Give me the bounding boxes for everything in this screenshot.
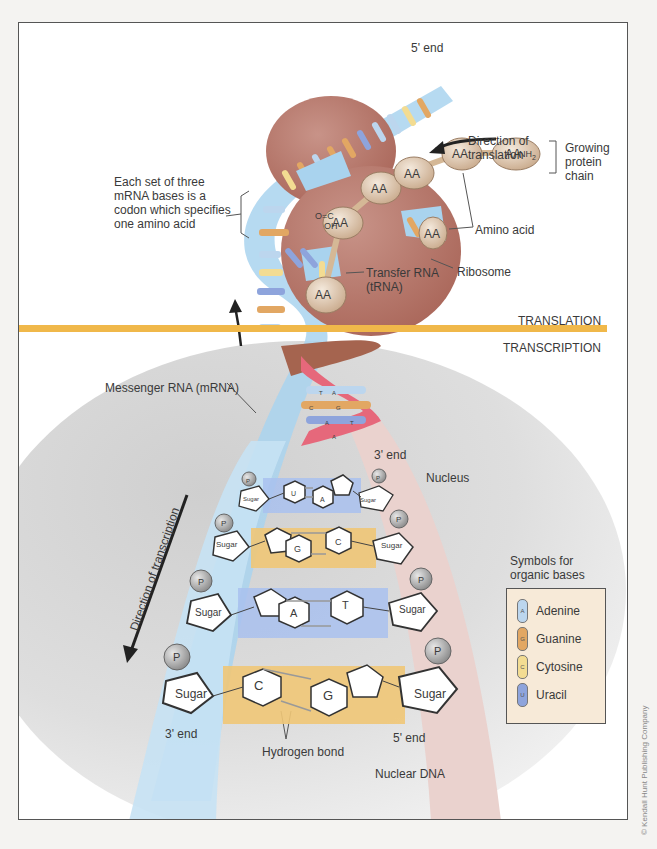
guanine-swatch-icon: G: [517, 627, 528, 651]
translation-section-label: TRANSLATION: [518, 314, 601, 328]
base-pair-4-right: G: [323, 689, 333, 703]
base-pair-1-left: U: [291, 487, 296, 501]
phosphate-label-r4: P: [434, 644, 441, 658]
copyright-notice: © Kendall Hunt Publishing Company: [640, 705, 649, 835]
phosphate-label-r3: P: [418, 573, 424, 587]
legend-title-line2: organic bases: [510, 568, 585, 582]
legend-item-uracil: U Uracil: [517, 683, 567, 707]
amino-acid-aa-4: AA: [452, 147, 468, 161]
helix-pair-3-right: T: [350, 416, 354, 430]
base-pair-2-right: C: [335, 535, 342, 549]
hydrogen-bond-label: Hydrogen bond: [262, 745, 344, 759]
legend-item-adenine: A Adenine: [517, 599, 580, 623]
helix-pair-3-left: A: [325, 416, 329, 430]
amino-acid-aa-3: AA: [404, 167, 420, 181]
legend-label-uracil: Uracil: [536, 688, 567, 702]
base-pair-4-left: C: [254, 679, 263, 693]
sugar-label-r3: Sugar: [399, 603, 426, 617]
base-pair-3-right: T: [342, 598, 349, 612]
phosphate-label-r2: P: [396, 513, 401, 527]
mrna-up-arrowhead: [229, 299, 242, 313]
nh2-label: NH2: [519, 147, 536, 165]
nuclear-dna-label: Nuclear DNA: [375, 767, 445, 781]
dna-three-prime-end-label: 3' end: [374, 448, 406, 462]
uracil-swatch-icon: U: [517, 683, 528, 707]
phosphate-label-l1: P: [246, 474, 250, 488]
ribosome-label: Ribosome: [457, 265, 511, 279]
trna-label-line1: Transfer RNA: [366, 266, 439, 280]
helix-pair-2-left: C: [309, 401, 313, 415]
helix-pair-1-right: A: [332, 386, 336, 400]
sugar-label-l2: Sugar: [216, 538, 237, 552]
direction-translation-label-line1: Direction of: [468, 134, 529, 148]
growing-chain-label-line2: protein: [565, 155, 602, 169]
translation-arrowhead: [429, 141, 445, 154]
sugar-label-r2: Sugar: [381, 539, 402, 553]
helix-pair-1-left: T: [319, 386, 323, 400]
legend-item-guanine: G Guanine: [517, 627, 581, 651]
sugar-label-r4: Sugar: [414, 687, 446, 701]
codon-label-line3: codon which specifies: [114, 203, 231, 217]
amino-acid-aa-6: AA: [315, 288, 331, 302]
nh2-subscript: 2: [532, 154, 536, 161]
base-pair-1-right: A: [320, 493, 325, 507]
codon-label-line4: one amino acid: [114, 217, 195, 231]
bottom-five-prime-end-label: 5' end: [393, 731, 425, 745]
growing-chain-bracket: [549, 141, 556, 173]
legend-label-adenine: Adenine: [536, 604, 580, 618]
sugar-label-l1: Sugar: [243, 492, 259, 506]
amino-acid-aa-5: AA: [505, 147, 521, 161]
phosphate-label-l2: P: [221, 517, 226, 531]
trna-label-line2: (tRNA): [366, 280, 403, 294]
amino-acid-aa-2: AA: [371, 182, 387, 196]
amino-acid-label: Amino acid: [475, 223, 534, 237]
legend-title-line1: Symbols for: [510, 554, 585, 568]
growing-chain-label-line3: chain: [565, 169, 594, 183]
helix-pair-2-right: G: [336, 401, 341, 415]
codon-label-line1: Each set of three: [114, 175, 205, 189]
mrna-label: Messenger RNA (mRNA): [105, 381, 239, 395]
phosphate-label-r1: P: [376, 471, 380, 485]
nucleus-label: Nucleus: [426, 471, 469, 485]
growing-chain-label-line1: Growing: [565, 141, 610, 155]
sugar-label-l4: Sugar: [175, 687, 207, 701]
legend-label-guanine: Guanine: [536, 632, 581, 646]
helix-pair-4-left: A: [332, 430, 336, 444]
base-pair-2-left: G: [294, 542, 301, 556]
cytosine-swatch-icon: C: [517, 655, 528, 679]
legend-item-cytosine: C Cytosine: [517, 655, 583, 679]
legend-box: A Adenine G Guanine C Cytosine U Uracil: [506, 588, 606, 724]
phosphate-label-l3: P: [198, 575, 204, 589]
phosphate-label-l4: P: [173, 650, 180, 664]
legend-label-cytosine: Cytosine: [536, 660, 583, 674]
bottom-three-prime-end-label: 3' end: [165, 727, 197, 741]
amino-acid-aa-1: AA: [332, 216, 348, 230]
adenine-swatch-icon: A: [517, 599, 528, 623]
transcription-section-label: TRANSCRIPTION: [503, 341, 601, 355]
sugar-label-r1: Sugar: [360, 493, 376, 507]
amino-acid-aa-7: AA: [424, 227, 440, 241]
base-pair-3-left: A: [290, 606, 297, 620]
sugar-label-l3: Sugar: [195, 606, 222, 620]
codon-label-line2: mRNA bases is a: [114, 189, 206, 203]
legend-title: Symbols for organic bases: [510, 554, 585, 582]
five-prime-end-label: 5' end: [411, 41, 443, 55]
